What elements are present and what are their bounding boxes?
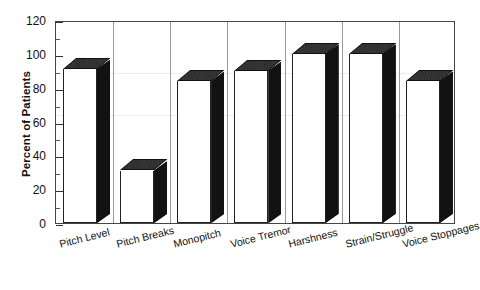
bar — [63, 69, 97, 223]
bar-front-face — [292, 54, 326, 223]
y-tick-major — [56, 157, 63, 158]
bar — [234, 71, 268, 223]
y-tick-label: 80 — [12, 83, 46, 95]
bar — [349, 54, 383, 223]
bar-front-face — [177, 81, 211, 223]
bar — [177, 81, 211, 223]
bar-front-face — [406, 81, 440, 223]
y-tick-label: 100 — [12, 49, 46, 61]
y-tick-label: 120 — [12, 15, 46, 27]
category-label: Voice Tremor — [229, 223, 292, 250]
y-tick-major — [56, 191, 63, 192]
bar-side-face — [97, 60, 110, 223]
bar — [406, 81, 440, 223]
category-label: Pitch Level — [58, 226, 111, 250]
category-label: Pitch Breaks — [115, 224, 175, 250]
bar-front-face — [349, 54, 383, 223]
y-tick-minor — [56, 174, 60, 175]
bar-side-face — [268, 61, 281, 223]
category-label: Monopitch — [172, 226, 222, 249]
y-tick-label: 0 — [12, 218, 46, 230]
y-tick-label: 60 — [12, 117, 46, 129]
bar-side-face — [326, 44, 339, 223]
bar — [292, 54, 326, 223]
bar — [120, 171, 154, 223]
y-tick-major — [56, 124, 63, 125]
y-tick-minor — [56, 140, 60, 141]
y-tick-major — [56, 90, 63, 91]
bar-side-face — [383, 44, 396, 223]
bar-front-face — [63, 69, 97, 223]
plot-area — [55, 21, 455, 224]
bar-side-face — [154, 161, 167, 223]
category-separator — [227, 22, 228, 223]
category-separator — [342, 22, 343, 223]
y-axis-tick-labels: 020406080100120 — [12, 0, 46, 290]
bar-side-face — [211, 72, 224, 223]
category-separator — [285, 22, 286, 223]
y-tick-label: 40 — [12, 150, 46, 162]
bar-front-face — [234, 71, 268, 223]
y-tick-minor — [56, 73, 60, 74]
y-tick-major — [56, 22, 63, 23]
category-separator — [113, 22, 114, 223]
y-tick-minor — [56, 39, 60, 40]
y-tick-major — [56, 56, 63, 57]
bar-side-face — [440, 72, 453, 223]
category-separator — [170, 22, 171, 223]
category-label: Harshness — [287, 226, 339, 250]
y-tick-label: 20 — [12, 184, 46, 196]
y-tick-minor — [56, 107, 60, 108]
bar-front-face — [120, 171, 154, 223]
y-tick-major — [56, 225, 63, 226]
category-separator — [399, 22, 400, 223]
y-tick-minor — [56, 208, 60, 209]
